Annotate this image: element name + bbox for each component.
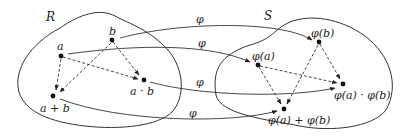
label-phi-product: φ(a) · φ(b) [334,89,391,102]
label-a-times-b: a · b [130,85,154,98]
label-phi-b: φ(b) [311,27,334,40]
point-b [110,38,115,43]
label-a: a [57,40,64,53]
map-arrow-b [120,26,312,41]
label-b: b [109,25,116,38]
dashed-b-to-product [113,42,139,75]
map-label-phi-4: φ [189,107,197,120]
label-phi-a: φ(a) [252,50,275,63]
dashed-phia-to-product [260,66,337,83]
map-label-phi-1: φ [196,13,204,26]
map-label-phi-3: φ [196,76,204,89]
point-phi-b [317,40,322,45]
dashed-a-to-product [63,57,138,79]
label-phi-sum: φ(a) + φ(b) [268,114,330,127]
homomorphism-diagram: R S a b a · b a + b φ(a) φ(b) φ(a) · φ(b… [0,0,408,136]
map-arrow-sum [60,99,277,119]
set-s-boundary [215,18,392,129]
dashed-a-to-sum [56,59,61,90]
map-arrow-product [150,82,335,94]
map-arrow-a [68,47,250,62]
point-phi-product [341,82,346,87]
set-r-label: R [45,10,55,24]
point-a-times-b [142,78,147,83]
dashed-phib-to-sum [287,45,318,104]
point-a [59,54,64,59]
map-label-phi-2: φ [198,37,206,50]
point-phi-a [256,63,261,68]
dashed-phib-to-product [320,44,340,79]
dashed-phia-to-sum [259,67,281,104]
point-phi-sum [282,107,287,112]
label-a-plus-b: a + b [40,102,70,115]
set-s-label: S [264,9,272,23]
point-a-plus-b [51,94,56,99]
dashed-b-to-sum [60,43,111,92]
